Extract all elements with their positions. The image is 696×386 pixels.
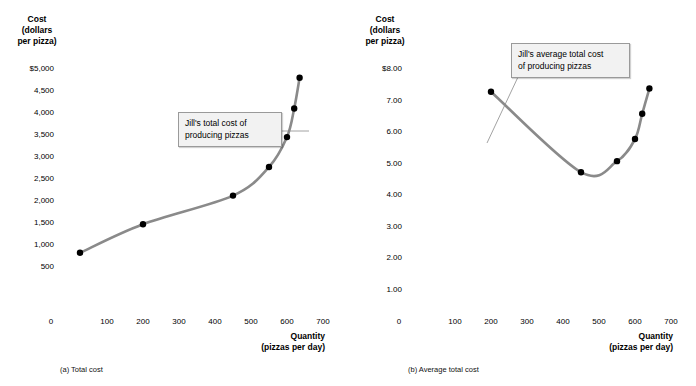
- total-cost-point-2: [230, 192, 236, 198]
- callout-leader-line-b: [487, 77, 518, 143]
- total-cost-plot: [0, 0, 348, 386]
- total-cost-point-1: [140, 221, 146, 227]
- panel-average-total-cost: Cost (dollars per pizza) $8.00 7.00 6.00…: [348, 0, 696, 386]
- average-total-cost-curve: [491, 89, 649, 177]
- average-total-cost-point-4: [639, 111, 645, 117]
- average-total-cost-point-1: [578, 169, 584, 175]
- panel-total-cost: Cost (dollars per pizza) $5,000 4,500 4,…: [0, 0, 348, 386]
- total-cost-point-6: [296, 74, 302, 80]
- average-total-cost-data-points: [488, 85, 653, 175]
- average-total-cost-point-3: [632, 136, 638, 142]
- total-cost-point-4: [284, 134, 290, 140]
- average-total-cost-point-0: [488, 88, 494, 94]
- total-cost-point-5: [291, 105, 297, 111]
- callout-total-cost: Jill's total cost of producing pizzas: [178, 112, 282, 147]
- average-total-cost-point-2: [614, 158, 620, 164]
- callout-average-total-cost: Jill's average total cost of producing p…: [511, 43, 630, 78]
- total-cost-point-3: [266, 164, 272, 170]
- total-cost-point-0: [77, 250, 83, 256]
- total-cost-data-points: [77, 74, 303, 256]
- average-total-cost-point-5: [646, 85, 652, 91]
